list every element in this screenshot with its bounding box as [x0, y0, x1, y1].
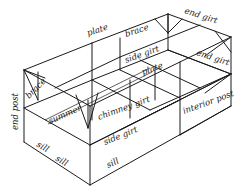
- label-sill-front: sill: [54, 153, 70, 168]
- labels: plate brace end girt side girt end girt …: [10, 5, 236, 169]
- label-sill-left: sill: [35, 139, 51, 154]
- label-summer: summer: [47, 102, 84, 126]
- label-plate-top: plate: [86, 22, 110, 38]
- label-end-girt-right: end girt: [195, 47, 231, 67]
- label-side-girt-front: side girt: [102, 124, 140, 147]
- timber-frame-diagram: plate brace end girt side girt end girt …: [0, 0, 247, 194]
- label-sill-right: sill: [105, 155, 121, 169]
- label-brace-left: brace: [23, 76, 47, 100]
- label-end-post: end post: [10, 92, 20, 130]
- label-end-girt-top: end girt: [183, 5, 219, 25]
- label-brace-top: brace: [124, 22, 150, 39]
- label-plate-mid: plate: [140, 60, 164, 77]
